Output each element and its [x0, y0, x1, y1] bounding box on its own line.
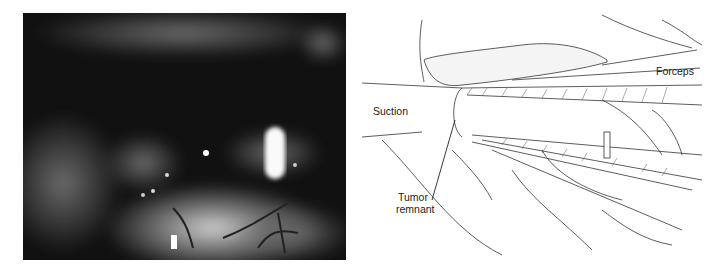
illustration-drawing: [362, 0, 724, 276]
photo-image: [23, 13, 346, 260]
label-suction: Suction: [373, 105, 408, 117]
surgical-illustration: Forceps Suction Tumor remnant: [362, 0, 724, 276]
label-tumor-line1: Tumor: [398, 191, 428, 203]
label-tumor-line2: remnant: [396, 203, 435, 215]
intraoperative-photo: [23, 13, 346, 260]
label-forceps: Forceps: [656, 65, 694, 77]
